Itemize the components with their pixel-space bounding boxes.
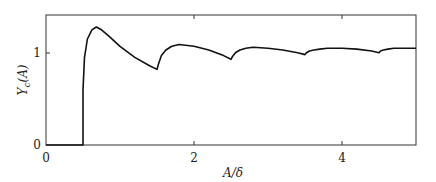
chart-svg: 0 2 4 A/δ 0 1 Yc(A) <box>0 0 436 182</box>
y-axis-label: Yc(A) <box>16 64 32 95</box>
series-line <box>46 27 416 145</box>
svg-text:Yc(A): Yc(A) <box>16 64 32 95</box>
y-label-arg: (A) <box>16 64 30 82</box>
x-axis-label: A/δ <box>222 166 243 180</box>
x-tick-label-4: 4 <box>338 151 346 165</box>
x-tick-label-2: 2 <box>190 151 198 165</box>
y-tick-label-1: 1 <box>33 46 41 60</box>
x-tick-label-0: 0 <box>42 151 50 165</box>
y-tick-label-0: 0 <box>33 138 41 152</box>
y-axis: 0 1 Yc(A) <box>16 46 50 152</box>
plot-frame <box>46 15 416 145</box>
